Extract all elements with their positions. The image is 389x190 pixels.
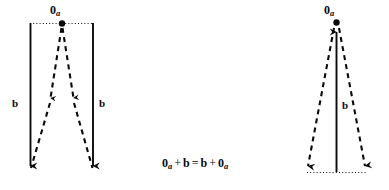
origin-label-right: 0a xyxy=(324,4,334,18)
equation-lhs-b: b xyxy=(183,156,190,170)
right-dashed-vector-right-fig xyxy=(339,28,365,166)
right-dashed-vector-upper xyxy=(63,28,74,98)
vector-figure: 0a b b 0a b 0a+b=b+0a xyxy=(0,0,389,190)
left-dashed-vector-lower xyxy=(31,103,50,168)
vector-label-b-center: b xyxy=(342,100,348,111)
left-dashed-vector-upper xyxy=(51,28,62,98)
origin-subscript-right: a xyxy=(330,8,334,18)
equation-rhs-zero-sub: a xyxy=(224,161,228,171)
origin-subscript-left: a xyxy=(56,8,60,18)
vector-label-b-right: b xyxy=(99,98,105,109)
left-diagram-group xyxy=(30,20,93,168)
equation-plus-2: + xyxy=(207,156,218,170)
origin-point-right xyxy=(333,19,339,25)
right-diagram-group xyxy=(307,19,366,172)
origin-point-left xyxy=(59,20,65,26)
equation-equals: = xyxy=(190,156,201,170)
commutativity-equation: 0a+b=b+0a xyxy=(162,157,228,171)
left-dashed-vector-right-fig xyxy=(308,28,334,166)
equation-plus-1: + xyxy=(172,156,183,170)
vector-label-b-left: b xyxy=(12,98,18,109)
right-dashed-vector-lower xyxy=(74,103,93,168)
origin-label-left: 0a xyxy=(50,4,60,18)
